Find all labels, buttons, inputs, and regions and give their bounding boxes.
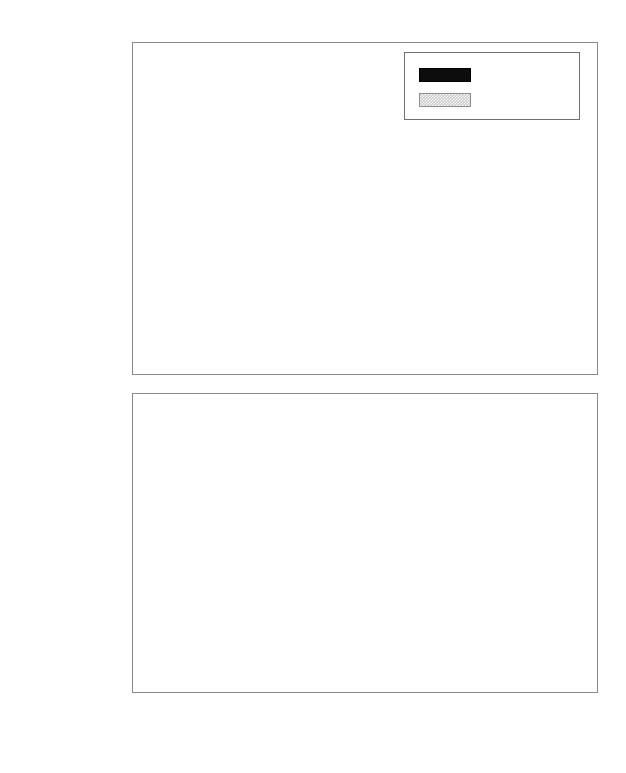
- legend-item-partner: [419, 62, 579, 87]
- figure-panel-chart: [0, 0, 626, 773]
- chart-panel-bottom: [132, 393, 598, 693]
- chart-legend: [404, 52, 580, 120]
- legend-item-stranger: [419, 87, 579, 112]
- legend-swatch-partner-icon: [419, 68, 471, 82]
- legend-swatch-stranger-icon: [419, 93, 471, 107]
- y-axis-ticks-top: [60, 42, 122, 375]
- bar-group-bottom: [132, 393, 598, 693]
- y-axis-ticks-bottom: [40, 393, 122, 693]
- x-axis: [132, 693, 598, 753]
